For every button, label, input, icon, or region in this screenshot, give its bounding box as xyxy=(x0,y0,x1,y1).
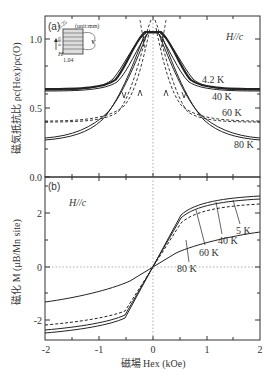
curve-60K-a xyxy=(45,20,151,122)
xtick-minus1: -1 xyxy=(95,344,103,355)
y-axis-title-b: 磁化 M (μB/Mn site) xyxy=(10,219,23,305)
ytick-b-0: 0 xyxy=(37,262,42,273)
inset-length-label: 1.04 xyxy=(63,57,74,63)
x-axis-title: 磁場 Hex (kOe) xyxy=(121,357,186,370)
curve-40K-b xyxy=(45,199,260,330)
ytick-a-0.5: 0.5 xyxy=(30,103,43,114)
panel-a-label: (a) xyxy=(48,21,60,32)
inset-unit-label: (unit:mm) xyxy=(75,23,99,30)
figure: H V 0.25 (unit:mm) 0.88 1.04 (a) H//c 4.… xyxy=(0,0,279,381)
label-60K-a: 60 K xyxy=(222,107,243,118)
field-direction-a: H//c xyxy=(225,31,244,42)
curve-5K xyxy=(45,196,260,333)
y-axis-title-a: 磁気抵抗比 ρc(Hex)/ρc(O) xyxy=(10,42,23,153)
label-80K-b: 80 K xyxy=(177,263,198,274)
label-60K-b: 60 K xyxy=(199,247,220,258)
label-5K: 5 K xyxy=(236,225,252,236)
panel-b-curves xyxy=(45,196,260,333)
inset-v-label: V xyxy=(91,38,96,46)
xtick-0: 0 xyxy=(151,344,156,355)
label-80K-a: 80 K xyxy=(234,139,255,150)
field-direction-b: H//c xyxy=(68,197,87,208)
label-40K-b: 40 K xyxy=(218,235,239,246)
label-4.2K: 4.2 K xyxy=(202,74,225,85)
xtick-minus2: -2 xyxy=(42,344,50,355)
ytick-a-1.0: 1.0 xyxy=(30,34,43,45)
xtick-1: 1 xyxy=(205,344,210,355)
ytick-a-0.0: 0.0 xyxy=(30,172,43,183)
label-40K-a: 40 K xyxy=(212,91,233,102)
panel-b-label: (b) xyxy=(48,181,60,192)
xtick-2: 2 xyxy=(258,344,263,355)
ytick-b-2: 2 xyxy=(37,208,42,219)
ytick-b-minus2: -2 xyxy=(34,315,42,326)
curve-60K-b xyxy=(45,204,260,325)
inset-height-label: 0.88 xyxy=(57,37,62,46)
